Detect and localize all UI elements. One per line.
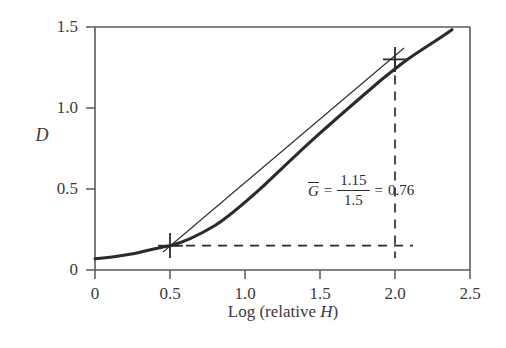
x-tick-label-3: 1.5 — [309, 284, 330, 304]
formula-symbol-g: G — [308, 182, 319, 200]
characteristic-curve — [95, 30, 452, 259]
y-axis-ticks — [86, 27, 95, 270]
x-axis-ticks — [95, 270, 470, 279]
x-axis-title-prefix: Log (relative — [228, 302, 321, 321]
formula-equals-first: = — [323, 182, 333, 199]
average-gradient-formula: G = 1.15 1.5 = 0.76 — [308, 172, 414, 209]
formula-denominator: 1.5 — [341, 191, 366, 209]
characteristic-curve-figure: 0 0.5 1.0 1.5 2.0 2.5 0 0.5 1.0 1.5 Log … — [0, 0, 506, 348]
x-tick-label-4: 2.0 — [384, 284, 405, 304]
y-tick-label-3: 1.5 — [30, 17, 78, 37]
x-tick-label-2: 1.0 — [234, 284, 255, 304]
upper-cross-marker — [383, 47, 408, 72]
formula-numerator: 1.15 — [337, 172, 369, 190]
axis-frame — [95, 27, 470, 270]
x-tick-label-1: 0.5 — [159, 284, 180, 304]
y-tick-label-2: 1.0 — [30, 98, 78, 118]
x-axis-title: Log (relative H) — [228, 302, 338, 322]
x-axis-title-suffix: ) — [333, 302, 339, 321]
formula-fraction: 1.15 1.5 — [337, 172, 369, 209]
average-gradient-chord — [163, 48, 404, 252]
formula-result: 0.76 — [388, 182, 414, 199]
x-tick-label-0: 0 — [91, 284, 100, 304]
x-axis-title-symbol: H — [320, 302, 332, 321]
lower-cross-marker — [158, 233, 183, 258]
formula-equals-second: = — [374, 182, 384, 199]
y-axis-title: D — [36, 125, 49, 146]
y-tick-label-0: 0 — [46, 260, 78, 280]
y-tick-label-1: 0.5 — [30, 179, 78, 199]
x-tick-label-5: 2.5 — [459, 284, 480, 304]
